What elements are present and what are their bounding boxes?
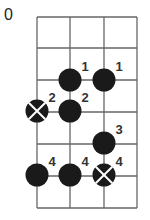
root-note-dot: 2 — [26, 90, 56, 123]
finger-dot: 1 — [93, 59, 123, 92]
finger-number: 1 — [81, 59, 88, 74]
finger-dot: 2 — [59, 90, 89, 123]
finger-number: 4 — [81, 154, 89, 169]
finger-dot: 1 — [59, 59, 89, 92]
finger-number: 3 — [115, 122, 122, 137]
root-note-dot: 4 — [93, 154, 124, 187]
finger-number: 2 — [48, 90, 55, 105]
finger-number: 4 — [115, 154, 123, 169]
finger-number: 2 — [81, 90, 88, 105]
finger-dot: 4 — [26, 154, 57, 187]
finger-number: 1 — [115, 59, 122, 74]
fretboard-diagram: 11223444 — [0, 0, 150, 220]
finger-number: 4 — [48, 154, 56, 169]
finger-dot: 4 — [59, 154, 90, 187]
finger-dot: 3 — [93, 122, 123, 155]
